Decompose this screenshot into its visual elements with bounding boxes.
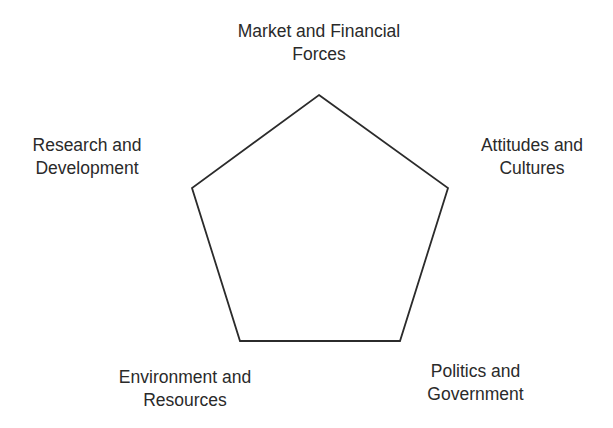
label-line: Development: [12, 157, 162, 180]
label-environment-and-resources: Environment and Resources: [100, 366, 270, 412]
label-line: Politics and: [408, 360, 543, 383]
label-line: Market and Financial: [212, 20, 426, 43]
label-line: Government: [408, 383, 543, 406]
label-line: Resources: [100, 389, 270, 412]
label-market-and-financial-forces: Market and Financial Forces: [212, 20, 426, 66]
label-line: Forces: [212, 43, 426, 66]
pentagon-shape: [192, 95, 448, 341]
label-line: Cultures: [462, 157, 602, 180]
label-line: Attitudes and: [462, 134, 602, 157]
label-line: Environment and: [100, 366, 270, 389]
label-line: Research and: [12, 134, 162, 157]
label-attitudes-and-cultures: Attitudes and Cultures: [462, 134, 602, 180]
label-research-and-development: Research and Development: [12, 134, 162, 180]
label-politics-and-government: Politics and Government: [408, 360, 543, 406]
